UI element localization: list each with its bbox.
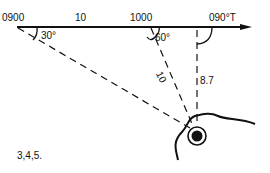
caption: 3,4,5. <box>17 151 42 161</box>
lighthouse-dot-icon <box>192 131 203 142</box>
beam-distance-label: 8.7 <box>200 76 214 86</box>
course-label: 090°T <box>209 13 236 23</box>
navigation-diagram <box>0 0 270 173</box>
start-time-label: 0900 <box>2 13 24 23</box>
angle-arc-30 <box>33 27 37 40</box>
course-arrow-icon <box>240 24 252 30</box>
angle-30-label: 30° <box>41 31 56 41</box>
distance-run-label: 10 <box>75 13 86 23</box>
second-time-label: 1000 <box>130 13 152 23</box>
angle-arc-90 <box>197 27 212 44</box>
angle-60-label: 60° <box>155 33 170 43</box>
